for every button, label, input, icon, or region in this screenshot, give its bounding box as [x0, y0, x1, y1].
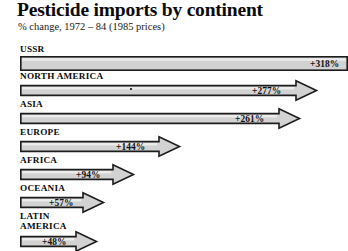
bar-value-europe: +144% — [116, 142, 145, 152]
bar-label-africa: AFRICA — [20, 155, 57, 165]
bar-value-north-america: +277% — [252, 86, 281, 96]
pesticide-imports-chart: Pesticide imports by continent % change,… — [0, 0, 348, 251]
bar-value-oceania: +57% — [49, 198, 74, 208]
bar-label-ussr: USSR — [20, 44, 45, 54]
bar-shape-ussr[interactable] — [20, 56, 348, 71]
bar-shape-europe[interactable] — [20, 139, 181, 154]
bar-value-latin-america: +48% — [42, 237, 67, 247]
bar-speck-north-america — [130, 88, 132, 90]
bar-label-north-america: NORTH AMERICA — [20, 71, 103, 81]
bar-label-oceania: OCEANIA — [20, 183, 65, 193]
chart-subtitle: % change, 1972 – 84 (1985 prices) — [18, 21, 165, 32]
bar-label-europe: EUROPE — [20, 127, 60, 137]
bar-value-ussr: +318% — [310, 59, 339, 69]
bar-label-latin-america-line1: LATIN — [20, 211, 50, 221]
bar-label-asia: ASIA — [20, 99, 43, 109]
bar-value-africa: +94% — [76, 170, 101, 180]
bar-label-latin-america-line2: AMERICA — [20, 221, 67, 231]
bar-value-asia: +261% — [235, 114, 264, 124]
chart-title: Pesticide imports by continent — [17, 0, 263, 21]
